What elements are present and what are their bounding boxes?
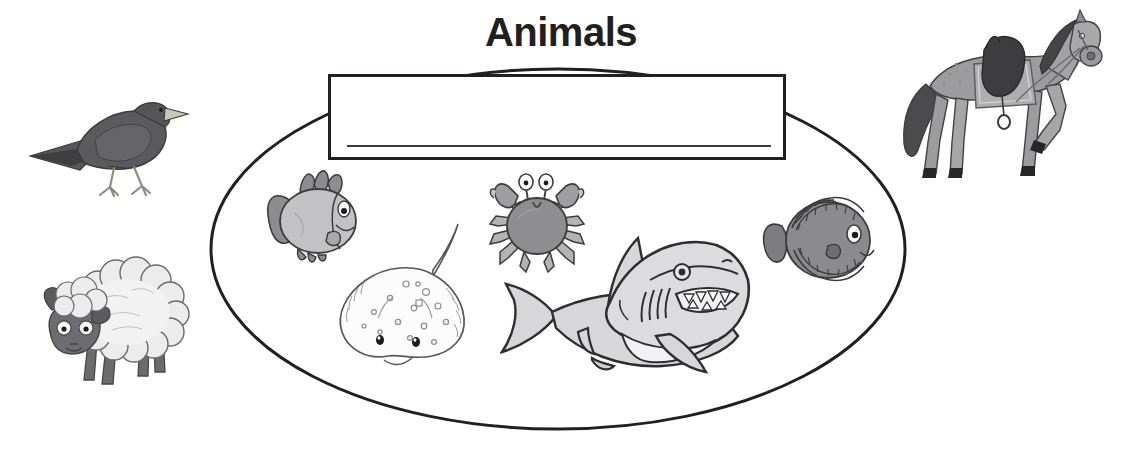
sheep-illustration <box>28 256 193 401</box>
answer-box[interactable] <box>328 74 786 160</box>
bird-illustration <box>22 78 197 198</box>
answer-writing-line <box>347 145 771 147</box>
worksheet-page: Animals <box>0 0 1122 452</box>
flat-fish-illustration <box>756 190 886 292</box>
stingray-illustration <box>328 222 498 377</box>
shark-illustration <box>500 224 752 392</box>
horse-illustration <box>890 8 1115 203</box>
